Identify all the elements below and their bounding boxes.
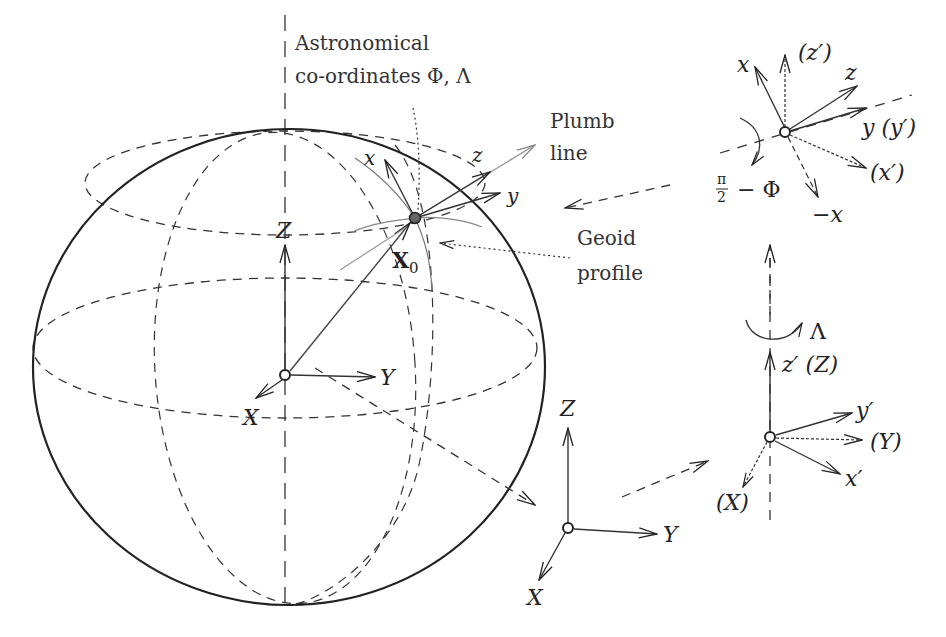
global-z-label: Z [275,218,292,243]
bottom-frame: Z Y X [525,396,680,610]
geoid-label-line1: Geoid [577,226,636,250]
phi-y-label: y (y′) [861,115,916,140]
phi-zprime-label: (z′) [798,40,832,65]
arrow-origin-to-bottom [315,368,535,505]
position-vector [290,223,410,371]
lambda-angle-label: Λ [809,319,827,344]
lambda-rotation-arrow [746,320,802,339]
phi-negx-label: −x [812,202,843,227]
global-y-label: Y [380,365,397,390]
lambda-rotation-frame: Λ z′ (Z) y′ (Y) x′ (X) [716,258,902,525]
global-x-label: X [241,405,260,430]
ellipsoid-outline [33,129,545,605]
phi-angle-label: π 2 − Φ [716,171,780,205]
origin-point [280,370,290,380]
bottom-y-label: Y [663,522,680,547]
svg-text:− Φ: − Φ [737,177,780,202]
lambda-xprime-label: x′ [845,466,862,491]
annotations: Astronomical co-ordinates Φ, Λ Plumb lin… [294,31,643,285]
phi-xprime-label: (x′) [870,160,905,185]
ellipsoid [33,15,545,612]
arrow-phi-to-local [565,185,670,208]
bottom-z-label: Z [559,396,576,421]
local-y-label: y [506,184,519,208]
station-point [410,213,421,224]
lambda-z-label: z′ (Z) [781,352,838,377]
arrow-bottom-to-lambda [622,461,708,497]
lambda-Y-label: (Y) [870,429,902,454]
astronomical-label-line2: co-ordinates Φ, Λ [295,64,471,88]
lambda-X-label: (X) [716,490,749,515]
phi-x-label: x [737,52,750,77]
svg-text:π: π [717,171,726,187]
global-frame: Z Y X [241,218,410,430]
astronomical-label-line1: Astronomical [294,31,429,55]
local-x-label: x [364,146,375,170]
bottom-x-label: X [525,585,544,610]
station-label: X0 [392,247,419,277]
local-z-label: z [471,143,483,167]
geoid-label-line2: profile [577,261,643,285]
plumb-line-label-line1: Plumb [550,109,615,133]
geodetic-frames-diagram: Z Y X x z y X0 Astronomical co-ordinates… [0,0,946,637]
svg-text:2: 2 [717,189,726,205]
phi-z-label: z [844,60,857,85]
geoid-pointer [440,243,570,258]
transition-arrows [315,185,770,505]
plumb-line-label-line2: line [550,141,588,165]
phi-rotation-frame: x (z′) z y (y′) (x′) −x π 2 − Φ [716,40,916,227]
station-frame: x z y X0 [352,108,570,290]
lambda-yprime-label: y′ [855,398,873,423]
